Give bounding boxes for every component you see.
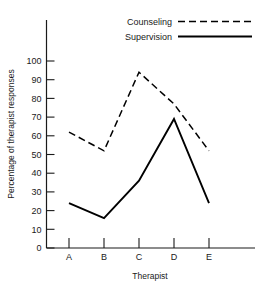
chart-figure: 0102030405060708090100 ABCDE Percentage … [0,0,268,290]
x-category-label-b: B [101,252,107,262]
x-axis-ticks [69,238,209,248]
x-category-label-d: D [171,252,178,262]
legend-label-counseling: Counseling [127,17,172,27]
x-axis-title: Therapist [132,271,168,281]
y-tick-label: 60 [31,131,41,141]
y-tick-label: 10 [31,225,41,235]
y-tick-label: 90 [31,75,41,85]
series-line-supervision [69,119,209,218]
x-category-label-c: C [136,252,143,262]
y-axis-tick-labels: 0102030405060708090100 [26,56,41,253]
x-category-label-e: E [206,252,212,262]
y-tick-label: 80 [31,94,41,104]
line-chart-canvas: 0102030405060708090100 ABCDE Percentage … [0,0,268,290]
series-line-counseling [69,72,209,151]
y-tick-label: 40 [31,168,41,178]
y-tick-label: 50 [31,150,41,160]
y-axis-title: Percentage of therapist responses [6,69,16,198]
y-tick-label: 0 [36,243,41,253]
x-category-label-a: A [66,252,72,262]
legend-label-supervision: Supervision [125,32,172,42]
y-axis-ticks [47,61,55,248]
chart-legend: Counseling Supervision [125,17,252,42]
y-tick-label: 100 [26,56,41,66]
y-tick-label: 20 [31,206,41,216]
y-tick-label: 70 [31,112,41,122]
x-axis-category-labels: ABCDE [66,252,212,262]
y-tick-label: 30 [31,187,41,197]
